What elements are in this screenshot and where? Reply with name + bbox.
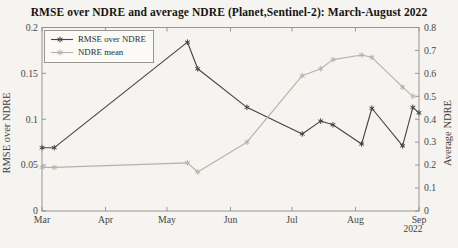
svg-text:0.15: 0.15 (21, 68, 38, 79)
svg-text:May: May (158, 214, 176, 225)
svg-text:0.7: 0.7 (424, 45, 436, 56)
svg-text:0.4: 0.4 (424, 114, 436, 125)
svg-text:0.8: 0.8 (424, 22, 436, 33)
svg-text:Jun: Jun (224, 214, 238, 225)
svg-text:0.5: 0.5 (424, 91, 436, 102)
legend-label: NDRE mean (78, 46, 123, 59)
left-axis-label: RMSE over NDRE (1, 48, 15, 218)
legend-line-asterisk-icon (50, 35, 74, 44)
svg-text:0.3: 0.3 (424, 136, 436, 147)
chart-canvas: RMSE over NDRE and average NDRE (Planet,… (0, 0, 458, 248)
svg-text:0.05: 0.05 (21, 159, 38, 170)
right-axis-label: Average NDRE (442, 48, 456, 218)
svg-text:0.1: 0.1 (26, 114, 38, 125)
svg-text:Aug: Aug (347, 214, 364, 225)
svg-text:0: 0 (424, 205, 429, 216)
svg-text:Jul: Jul (286, 214, 298, 225)
legend-item-rmse: RMSE over NDRE (50, 33, 146, 46)
legend-line-asterisk-icon (50, 48, 74, 57)
svg-text:Apr: Apr (98, 214, 114, 225)
legend-item-ndre-mean: NDRE mean (50, 46, 146, 59)
svg-text:0.1: 0.1 (424, 182, 436, 193)
x-axis-year-label: 2022 (384, 224, 442, 234)
svg-text:0: 0 (33, 205, 38, 216)
legend-label: RMSE over NDRE (78, 33, 146, 46)
chart-legend: RMSE over NDRE NDRE mean (44, 30, 154, 63)
svg-text:0.2: 0.2 (26, 22, 38, 33)
svg-text:0.6: 0.6 (424, 68, 436, 79)
svg-text:0.2: 0.2 (424, 159, 436, 170)
